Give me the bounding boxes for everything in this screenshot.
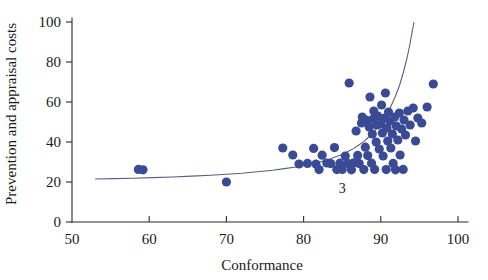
y-tick-label: 60: [46, 94, 61, 110]
data-point: [138, 165, 147, 174]
data-point: [429, 79, 438, 88]
data-point: [330, 143, 339, 152]
y-axis: 020406080100: [39, 14, 73, 230]
data-point: [399, 165, 408, 174]
data-point: [409, 103, 418, 112]
chart-annotations: 3: [339, 181, 346, 196]
data-point: [370, 165, 379, 174]
data-point: [345, 78, 354, 87]
data-point: [365, 92, 374, 101]
annotation-text: 3: [339, 181, 346, 196]
data-point: [417, 118, 426, 127]
data-point: [294, 159, 303, 168]
data-point: [288, 150, 297, 159]
data-point: [368, 129, 377, 138]
data-point: [314, 165, 323, 174]
data-points: [134, 78, 438, 186]
data-point: [393, 135, 402, 144]
plot-canvas: 020406080100 5060708090100 3 Conformance…: [0, 0, 488, 280]
x-tick-label: 90: [373, 231, 388, 247]
data-point: [381, 88, 390, 97]
x-tick-label: 80: [296, 231, 311, 247]
y-tick-label: 40: [46, 134, 61, 150]
data-point: [382, 165, 391, 174]
data-point: [303, 159, 312, 168]
x-tick-label: 50: [65, 231, 80, 247]
x-tick-label: 70: [219, 231, 234, 247]
data-point: [361, 143, 370, 152]
data-point: [396, 150, 405, 159]
data-point: [278, 143, 287, 152]
data-point: [318, 151, 327, 160]
data-point: [379, 151, 388, 160]
data-point: [406, 120, 415, 129]
y-tick-label: 20: [46, 174, 61, 190]
data-point: [386, 143, 395, 152]
y-axis-title: Prevention and appraisal costs: [3, 23, 19, 205]
y-tick-label: 0: [54, 214, 62, 230]
data-point: [401, 130, 410, 139]
data-point: [309, 144, 318, 153]
data-point: [359, 165, 368, 174]
y-tick-label: 100: [39, 14, 62, 30]
data-point: [222, 177, 231, 186]
x-tick-label: 60: [142, 231, 157, 247]
x-axis-title: Conformance: [221, 257, 303, 273]
data-point: [353, 151, 362, 160]
x-tick-label: 100: [447, 231, 470, 247]
data-point: [423, 102, 432, 111]
data-point: [352, 126, 361, 135]
y-tick-label: 80: [46, 54, 61, 70]
data-point: [411, 136, 420, 145]
scatter-plot-figure: 020406080100 5060708090100 3 Conformance…: [0, 0, 488, 280]
data-point: [377, 100, 386, 109]
x-axis: 5060708090100: [65, 216, 470, 247]
